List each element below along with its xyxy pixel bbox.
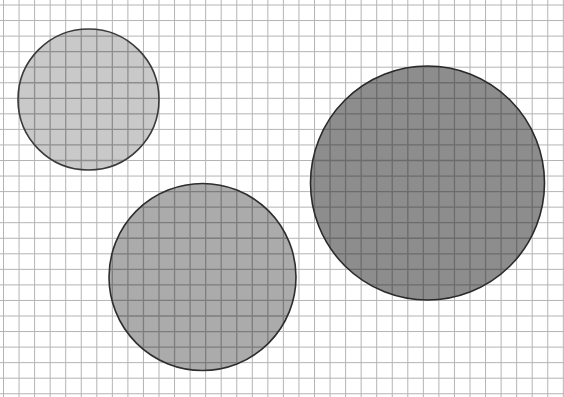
grid-paper-diagram [0, 0, 564, 397]
